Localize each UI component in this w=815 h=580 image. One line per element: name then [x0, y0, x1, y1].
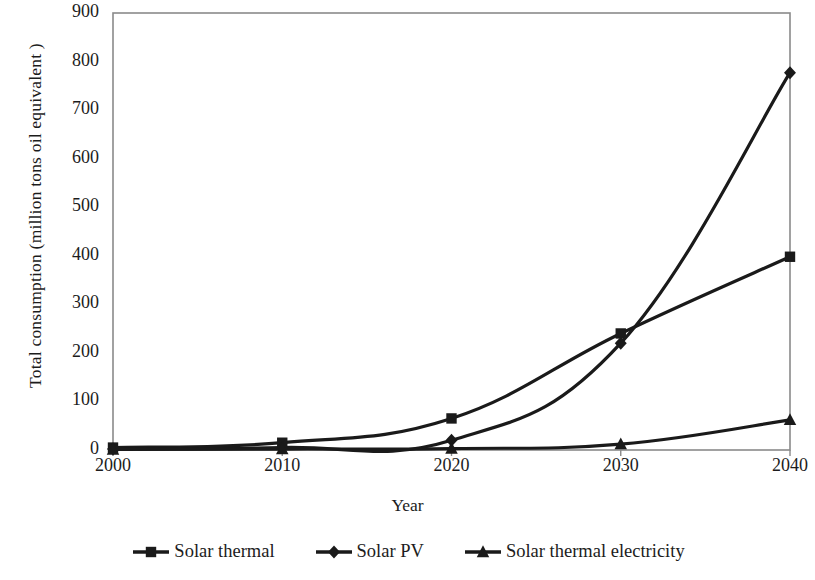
chart-figure: Total consumption (million tons oil equi… — [0, 0, 815, 580]
legend-marker — [462, 543, 504, 561]
x-tick-label: 2010 — [237, 455, 327, 476]
series-line — [113, 73, 790, 452]
square-marker-icon — [785, 252, 795, 262]
y-tick-label: 700 — [35, 98, 99, 119]
y-tick-label: 400 — [35, 244, 99, 265]
x-tick-label: 2020 — [407, 455, 497, 476]
y-tick-label: 200 — [35, 341, 99, 362]
x-tick-label: 2000 — [68, 455, 158, 476]
legend-label: Solar thermal — [174, 541, 274, 562]
diamond-marker-icon — [328, 545, 340, 558]
x-tick-label: 2030 — [576, 455, 666, 476]
legend-item[interactable]: Solar thermal electricity — [462, 541, 685, 562]
y-tick-label: 600 — [35, 147, 99, 168]
y-tick-label: 500 — [35, 195, 99, 216]
square-marker-icon — [446, 413, 456, 423]
legend-item[interactable]: Solar PV — [313, 541, 424, 562]
x-axis-title: Year — [0, 495, 815, 516]
plot-frame — [113, 13, 790, 450]
square-marker-icon — [146, 546, 156, 556]
y-tick-label: 900 — [35, 1, 99, 22]
legend-label: Solar thermal electricity — [506, 541, 685, 562]
y-tick-label: 300 — [35, 292, 99, 313]
series-1 — [108, 252, 795, 453]
y-tick-label: 100 — [35, 389, 99, 410]
legend-label: Solar PV — [357, 541, 424, 562]
series-2 — [107, 66, 796, 455]
legend-marker — [130, 543, 172, 561]
x-tick-label: 2040 — [745, 455, 815, 476]
legend-marker — [313, 543, 355, 561]
plot-area — [0, 0, 815, 580]
legend-item[interactable]: Solar thermal — [130, 541, 274, 562]
chart-legend: Solar thermalSolar PVSolar thermal elect… — [0, 541, 815, 562]
y-tick-label: 800 — [35, 50, 99, 71]
